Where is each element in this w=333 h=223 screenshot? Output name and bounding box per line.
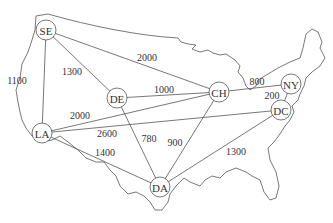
- node-se: SE: [36, 20, 56, 40]
- edge-se-ch: [46, 30, 219, 92]
- node-la: LA: [32, 123, 52, 143]
- edge-weight-label: 200: [265, 90, 280, 101]
- edge-weight-label: 2000: [70, 110, 90, 121]
- edge-se-de: [46, 30, 117, 98]
- node-dc: DC: [271, 100, 291, 120]
- node-da: DA: [150, 177, 170, 197]
- node-ch: CH: [209, 82, 229, 102]
- node-label: DE: [110, 93, 125, 105]
- node-label: DA: [152, 182, 168, 194]
- node-de: DE: [107, 88, 127, 108]
- edge-se-la: [42, 30, 46, 133]
- edge-weight-label: 2000: [137, 52, 157, 63]
- node-label: CH: [211, 87, 226, 99]
- node-label: LA: [35, 128, 50, 140]
- edge-weight-label: 2600: [97, 128, 117, 139]
- edge-weight-label: 900: [168, 137, 183, 148]
- edge-weight-label: 1100: [7, 75, 27, 86]
- us-map-graph: 1100130020001000200026007809001400800200…: [0, 0, 333, 223]
- edge-weight-label: 780: [142, 133, 157, 144]
- node-label: SE: [40, 25, 53, 37]
- node-label: DC: [273, 105, 288, 117]
- edge-weight-label: 1400: [95, 147, 115, 158]
- edge-weight-label: 1300: [226, 146, 246, 157]
- node-ny: NY: [281, 74, 301, 94]
- node-label: NY: [283, 79, 299, 91]
- edge-weight-label: 800: [250, 76, 265, 87]
- edge-weight-label: 1000: [154, 84, 174, 95]
- edge-weight-label: 1300: [62, 66, 82, 77]
- edge-dc-da: [160, 110, 281, 187]
